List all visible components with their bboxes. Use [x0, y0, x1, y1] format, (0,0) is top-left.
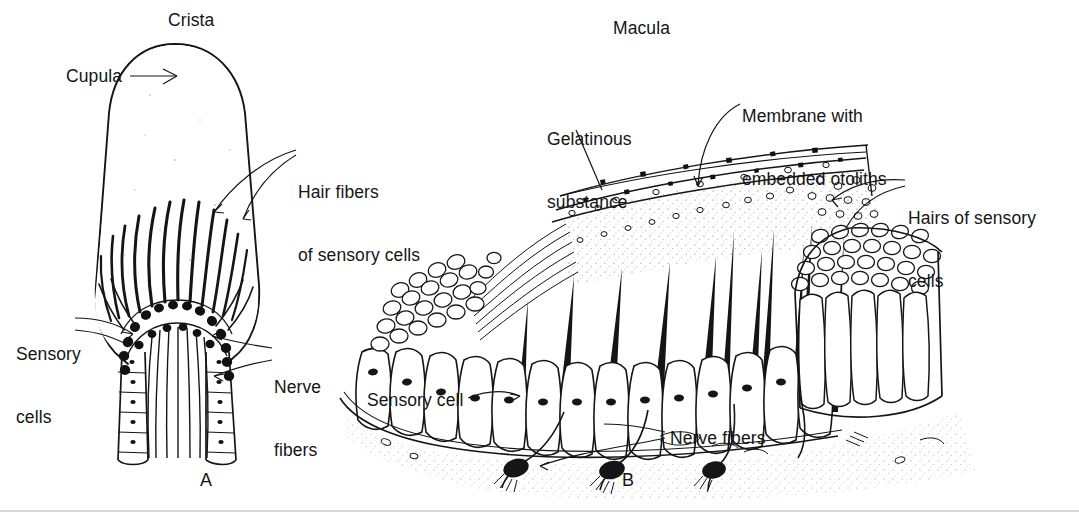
label-hairs-of-line2: cells	[908, 271, 1036, 292]
label-nerve-fibers-a-line1: Nerve	[274, 377, 321, 398]
label-membrane-line2: embedded otoliths	[742, 169, 887, 190]
label-sensory-cells-line2: cells	[16, 407, 81, 428]
label-sensory-cell: Sensory cell	[367, 390, 464, 411]
figure-root: Crista Cupula Hair fibers of sensory cel…	[0, 0, 1079, 513]
label-hair-fibers-line2: of sensory cells	[298, 245, 420, 266]
label-hairs-of-sensory-cells: Hairs of sensory cells	[908, 166, 1036, 334]
label-nerve-fibers-a: Nerve fibers	[274, 335, 321, 503]
label-membrane-with-embedded-otoliths: Membrane with embedded otoliths	[742, 64, 887, 232]
panel-a-crista	[75, 44, 296, 465]
label-cupula: Cupula	[66, 66, 122, 87]
supporting-cell-walls	[118, 352, 236, 465]
label-macula: Macula	[613, 18, 670, 39]
label-hairs-of-line1: Hairs of sensory	[908, 208, 1036, 229]
panel-letter-b: B	[622, 470, 634, 491]
label-gelatinous-line2: substance	[547, 192, 632, 213]
label-sensory-cells-line1: Sensory	[16, 344, 81, 365]
label-nerve-fibers-a-line2: fibers	[274, 440, 321, 461]
label-sensory-cells: Sensory cells	[16, 302, 81, 470]
label-membrane-line1: Membrane with	[742, 106, 887, 127]
label-gelatinous-line1: Gelatinous	[547, 129, 632, 150]
label-nerve-fibers-b: Nerve fibers	[670, 428, 766, 449]
label-hair-fibers-of-sensory-cells: Hair fibers of sensory cells	[298, 140, 420, 308]
label-gelatinous-substance: Gelatinous substance	[547, 87, 632, 255]
panel-letter-a: A	[200, 470, 212, 491]
label-crista: Crista	[168, 10, 214, 31]
label-hair-fibers-line1: Hair fibers	[298, 182, 420, 203]
